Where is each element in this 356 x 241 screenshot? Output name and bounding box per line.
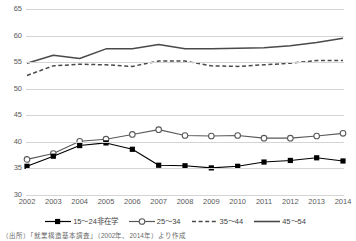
series-marker <box>209 133 215 139</box>
series-marker <box>182 133 188 139</box>
legend-label: 45～54 <box>282 217 306 226</box>
gridline <box>26 115 344 116</box>
gridline <box>26 36 344 37</box>
series-marker <box>340 131 346 137</box>
legend-swatch-icon <box>254 217 280 226</box>
series-marker <box>77 143 82 148</box>
legend-swatch-icon <box>129 217 155 226</box>
source-note: （出所）「就業構造基本調査」（2002年、2014年）より作成 <box>2 232 186 240</box>
y-axis-tick-label: 30 <box>0 191 22 199</box>
legend-item[interactable]: 35～44 <box>192 217 244 226</box>
chart-legend: 15～24非在学25～3435～4445～54 <box>0 217 351 226</box>
legend-item[interactable]: 25～34 <box>129 217 181 226</box>
x-axis-tick-label: 2014 <box>323 198 356 206</box>
gridline <box>26 9 344 10</box>
series-marker <box>130 147 135 152</box>
series-marker <box>156 127 162 133</box>
legend-swatch-icon <box>45 217 71 226</box>
y-axis-tick-label: 60 <box>0 32 22 40</box>
gridline <box>26 89 344 90</box>
y-axis-tick-label: 35 <box>0 164 22 172</box>
series-marker <box>288 158 293 163</box>
legend-label: 25～34 <box>157 217 181 226</box>
legend-swatch-icon <box>192 217 218 226</box>
series-marker <box>340 158 345 163</box>
series-marker <box>51 154 56 159</box>
series-marker <box>314 155 319 160</box>
y-axis-tick-label: 50 <box>0 85 22 93</box>
plot-area <box>26 9 344 195</box>
series-marker <box>261 159 266 164</box>
series-marker <box>24 157 30 163</box>
series-line <box>27 38 343 63</box>
gridline <box>26 62 344 63</box>
series-marker <box>314 133 320 139</box>
y-axis-tick-label: 45 <box>0 111 22 119</box>
series-marker <box>235 133 241 139</box>
gridline <box>26 142 344 143</box>
series-marker <box>288 135 294 141</box>
legend-item[interactable]: 45～54 <box>254 217 306 226</box>
series-marker <box>156 163 161 168</box>
legend-item[interactable]: 15～24非在学 <box>45 217 118 226</box>
series-marker <box>261 135 267 141</box>
y-axis-tick-label: 55 <box>0 58 22 66</box>
y-axis-tick-label: 65 <box>0 5 22 13</box>
gridline <box>26 168 344 169</box>
legend-label: 15～24非在学 <box>73 217 118 226</box>
series-marker <box>130 132 136 138</box>
y-axis-tick-label: 40 <box>0 138 22 146</box>
chart-series-layer <box>26 9 344 195</box>
gridline <box>26 195 344 196</box>
legend-label: 35～44 <box>220 217 244 226</box>
